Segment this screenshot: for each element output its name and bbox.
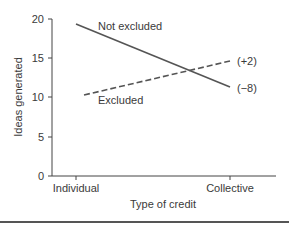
line-chart: 20 15 10 5 0 Individual Collective Ideas… [0, 0, 289, 225]
series-label-not-excluded: Not excluded [98, 20, 162, 32]
ytick-label-15: 15 [32, 52, 44, 64]
x-ticks [76, 176, 230, 180]
xtick-label-collective: Collective [206, 182, 254, 194]
series-label-excluded: Excluded [98, 94, 143, 106]
bottom-rule [0, 221, 289, 223]
y-ticks [48, 19, 52, 137]
annotation-not-excluded-change: (−8) [237, 82, 257, 94]
ytick-label-20: 20 [32, 13, 44, 25]
y-axis-title: Ideas generated [12, 57, 24, 137]
ytick-label-0: 0 [38, 170, 44, 182]
x-axis-title: Type of credit [130, 198, 196, 210]
annotation-excluded-change: (+2) [237, 55, 257, 67]
series-not-excluded-line [76, 24, 230, 87]
ytick-label-10: 10 [32, 91, 44, 103]
xtick-label-individual: Individual [53, 182, 99, 194]
ytick-label-5: 5 [38, 131, 44, 143]
